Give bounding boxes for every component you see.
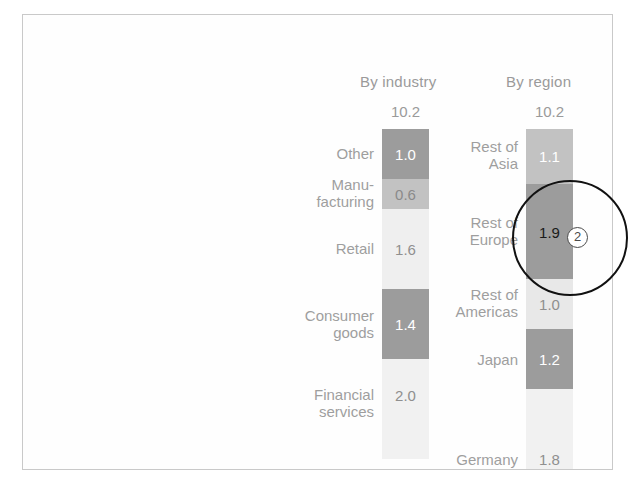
bar-segment-industry-4[interactable]: Financial services 2.0 <box>382 359 429 459</box>
stacked-bar-region: Rest of Asia 1.1 Rest of Europe 1.9 Rest… <box>526 129 573 470</box>
bar-segment-industry-1[interactable]: Manu- facturing 0.6 <box>382 179 429 209</box>
bar-segment-value-industry-4: 2.0 <box>382 388 429 403</box>
column-header-industry: By industry <box>360 73 436 90</box>
column-total-industry: 10.2 <box>382 103 429 120</box>
bar-segment-label-region-4: Germany <box>368 451 518 468</box>
bar-segment-value-region-3: 1.2 <box>526 352 573 367</box>
bar-segment-label-region-3: Japan <box>368 351 518 368</box>
bar-segment-value-region-4: 1.8 <box>526 452 573 467</box>
bar-segment-region-0[interactable]: Rest of Asia 1.1 <box>526 129 573 184</box>
bar-segment-label-industry-2: Retail <box>224 240 374 257</box>
bar-segment-label-industry-4: Financial services <box>224 386 374 420</box>
bar-segment-region-1[interactable]: Rest of Europe 1.9 <box>526 184 573 279</box>
bar-segment-value-region-1: 1.9 <box>526 225 573 240</box>
bar-segment-value-industry-1: 0.6 <box>382 187 429 202</box>
bar-segment-value-region-2: 1.0 <box>526 297 573 312</box>
bar-segment-region-2[interactable]: Rest of Americas 1.0 <box>526 279 573 329</box>
bar-segment-label-region-2: Rest of Americas <box>368 286 518 320</box>
bar-segment-label-region-1: Rest of Europe <box>368 214 518 248</box>
chart-frame: By industry 10.2 Other 1.0 Manu- facturi… <box>22 14 613 470</box>
bar-segment-region-3[interactable]: Japan 1.2 <box>526 329 573 389</box>
bar-segment-region-4[interactable]: Germany 1.8 <box>526 389 573 470</box>
bar-segment-label-industry-0: Other <box>224 145 374 162</box>
bar-segment-label-industry-3: Consumer goods <box>224 307 374 341</box>
annotation-badge-2: 2 <box>567 227 588 248</box>
bar-segment-label-region-0: Rest of Asia <box>368 138 518 172</box>
bar-segment-label-industry-1: Manu- facturing <box>224 176 374 210</box>
bar-segment-value-region-0: 1.1 <box>526 149 573 164</box>
column-header-region: By region <box>506 73 571 90</box>
column-total-region: 10.2 <box>526 103 573 120</box>
